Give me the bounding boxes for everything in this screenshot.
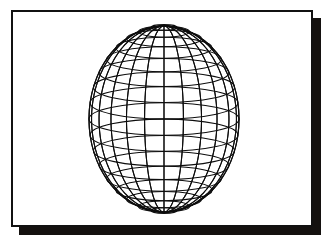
figure-root (0, 0, 328, 237)
plate-inner-area (13, 12, 311, 225)
graticule-mesh (89, 25, 239, 214)
wireframe-globe (13, 12, 311, 225)
framed-illustration-plate (11, 10, 313, 227)
